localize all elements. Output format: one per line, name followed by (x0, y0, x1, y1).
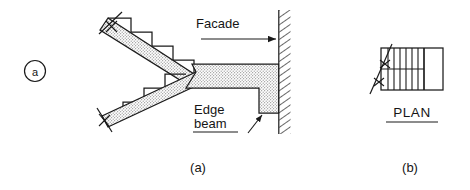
plan-label-group: PLAN (386, 105, 438, 122)
figure-canvas: a (0, 0, 470, 190)
edge-beam-label-line2: beam (194, 116, 227, 131)
technical-diagram: a (0, 0, 470, 190)
plan-label: PLAN (393, 105, 430, 120)
caption-panel-a: (a) (190, 160, 206, 175)
facade-wall (279, 10, 291, 134)
edge-beam-label-line1: Edge (194, 102, 224, 117)
facade-label: Facade (196, 16, 239, 31)
caption-panel-b: (b) (402, 160, 418, 175)
figure-marker-a: a (25, 61, 46, 82)
figure-marker-a-label: a (32, 66, 39, 78)
facade-wall-hatch (280, 10, 291, 134)
